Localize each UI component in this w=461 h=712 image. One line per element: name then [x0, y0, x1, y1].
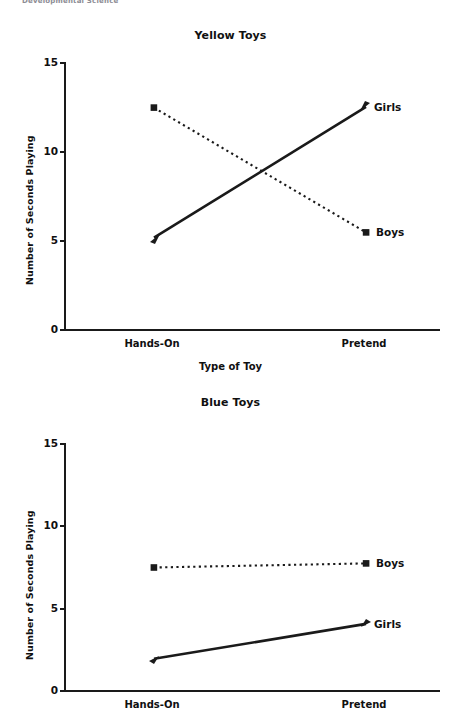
series-marker-boys-handson-yellow [151, 104, 158, 111]
chart-title-blue: Blue Toys [0, 396, 461, 409]
page-header-label: Developmental Science [22, 0, 162, 5]
y-tick-label-10: 10 [43, 145, 58, 157]
y-tick-label-15: 15 [43, 56, 58, 68]
y-tick-label-5: 5 [51, 234, 58, 246]
page-header-text: Developmental Science [22, 0, 162, 6]
series-marker-boys-handson-blue [151, 564, 158, 571]
series-line-boys-blue [154, 563, 366, 567]
chart-yellow-toys: Yellow Toys Number of Seconds Playing 0 … [0, 20, 461, 380]
series-marker-girls-handson-yellow [150, 234, 160, 244]
y-axis-label-blue: Number of Seconds Playing [24, 510, 35, 660]
plot-area-yellow: 0 5 10 15 Girls Boys [64, 62, 440, 331]
series-marker-girls-pretend-yellow [360, 101, 370, 111]
series-line-girls-yellow [154, 107, 366, 238]
series-label-girls-yellow: Girls [374, 101, 401, 113]
series-label-girls-blue: Girls [374, 618, 401, 630]
plot-area-blue: 0 5 10 15 Boys Girls [64, 443, 440, 692]
x-tick-label-pretend-yellow: Pretend [342, 338, 387, 349]
series-boys-blue [151, 560, 370, 571]
series-line-girls-blue [154, 624, 366, 659]
series-label-boys-blue: Boys [376, 557, 404, 569]
series-marker-girls-pretend-blue [361, 619, 371, 627]
chart-blue-toys: Blue Toys Number of Seconds Playing 0 5 … [0, 385, 461, 712]
y-tick-label-5-blue: 5 [51, 602, 58, 614]
x-tick-label-pretend-blue: Pretend [342, 699, 387, 710]
chart-title-yellow: Yellow Toys [0, 29, 461, 42]
series-label-boys-yellow: Boys [376, 226, 404, 238]
y-tick-label-10-blue: 10 [43, 519, 58, 531]
y-tick-label-0: 0 [51, 323, 58, 335]
y-tick-label-15-blue: 15 [43, 437, 58, 449]
series-girls-yellow [150, 101, 370, 244]
y-tick-label-0-blue: 0 [51, 684, 58, 696]
series-marker-boys-pretend-yellow [363, 229, 370, 236]
y-axis-label-yellow: Number of Seconds Playing [24, 135, 35, 285]
series-girls-blue [149, 619, 371, 664]
x-axis-label-yellow: Type of Toy [0, 361, 461, 372]
series-marker-girls-handson-blue [149, 656, 159, 664]
series-marker-boys-pretend-blue [363, 560, 370, 567]
x-tick-label-handson-blue: Hands-On [124, 699, 179, 710]
x-tick-label-handson-yellow: Hands-On [124, 338, 179, 349]
